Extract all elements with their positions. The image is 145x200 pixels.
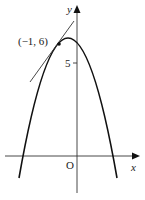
origin-label: O xyxy=(66,159,74,171)
x-axis-arrow-icon xyxy=(132,153,140,160)
point-label: (−1, 6) xyxy=(18,35,48,48)
tangent-line xyxy=(30,21,74,82)
y-axis-arrow-icon xyxy=(74,5,81,13)
graph-canvas: y x O 5 (−1, 6) xyxy=(0,0,145,200)
x-axis-label: x xyxy=(130,161,136,173)
y-axis-label: y xyxy=(66,3,72,15)
tangent-point xyxy=(57,42,61,46)
y-tick-label: 5 xyxy=(65,57,71,69)
